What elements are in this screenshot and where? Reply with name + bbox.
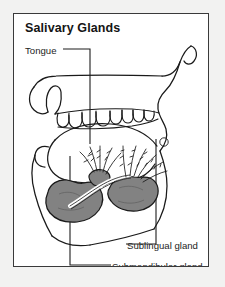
figure-frame: Salivary Glands bbox=[13, 13, 209, 267]
callout-label-sublingual: Sublingual gland bbox=[127, 240, 198, 251]
leader-line-tongue bbox=[63, 49, 90, 144]
upper-teeth-row bbox=[55, 109, 159, 129]
figure-root: Salivary Glands bbox=[0, 0, 225, 287]
callout-label-submandibular: Submandibular gland bbox=[112, 261, 203, 267]
callout-label-tongue: Tongue bbox=[25, 45, 56, 56]
